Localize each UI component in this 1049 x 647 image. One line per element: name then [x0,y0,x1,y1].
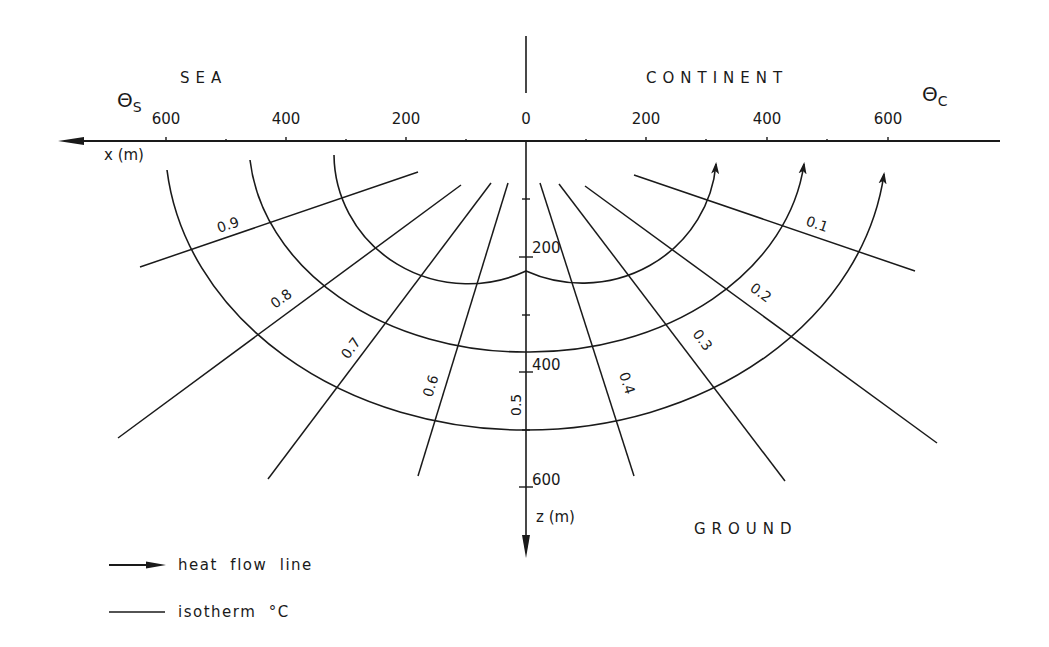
isotherm-label-0.9: 0.9 [215,213,241,235]
isotherm-0.8 [118,185,461,438]
isotherm-0.9 [140,172,418,267]
x-axis-label: x (m) [104,146,144,164]
isotherm-label-0.5: 0.5 [508,394,524,416]
region-label-ground: GROUND [694,520,798,538]
legend-label-heat-flow: heat flow line [178,556,313,574]
isotherm-label-0.4: 0.4 [616,370,638,396]
x-tick-right-400: 400 [753,110,782,128]
isotherm-0.7 [268,183,491,479]
isotherm-label-0.1: 0.1 [804,213,830,235]
isotherm-0.2 [585,186,937,443]
legend-item-isotherm: isotherm °C [108,603,290,621]
isotherm-label-0.8: 0.8 [267,285,294,311]
z-tick-200: 200 [532,239,561,257]
legend-label-isotherm: isotherm °C [178,603,290,621]
z-tick-600: 600 [532,471,561,489]
theta-sea-label: ΘS [117,88,142,115]
isotherm-0.4 [540,183,634,476]
isotherm-label-0.3: 0.3 [690,326,716,353]
z-axis [519,141,533,558]
theta-continent-label: ΘC [922,82,948,109]
x-tick-left-400: 400 [272,110,301,128]
z-tick-400: 400 [532,356,561,374]
x-tick-left-200: 200 [392,110,421,128]
region-label-continent: CONTINENT [646,69,788,87]
x-tick-right-200: 200 [632,110,661,128]
x-tick-left-600: 600 [152,110,181,128]
x-axis-tick-labels: 600 400 200 0 200 400 600 [152,110,903,128]
isotherm-0.1 [634,175,915,271]
z-axis-label: z (m) [536,508,575,526]
arrow-line-icon [108,559,168,571]
isotherm-label-0.6: 0.6 [420,373,442,399]
x-tick-right-600: 600 [874,110,903,128]
x-axis-arrow-icon [58,137,84,145]
isotherm-0.3 [559,184,785,481]
isotherm-0.6 [418,183,508,476]
plain-line-icon [108,606,168,618]
isotherm-label-0.2: 0.2 [747,279,774,305]
z-axis-arrow-icon [522,535,530,558]
legend-item-heat-flow: heat flow line [108,556,313,574]
heat-flow-diagram: SEA CONTINENT GROUND ΘS ΘC 600 400 200 0… [0,0,1049,647]
heat-flow-line-2 [250,160,804,352]
region-label-sea: SEA [180,69,227,87]
heat-flow-line-1 [334,155,716,284]
x-axis [58,137,1000,145]
x-tick-origin: 0 [521,110,531,128]
